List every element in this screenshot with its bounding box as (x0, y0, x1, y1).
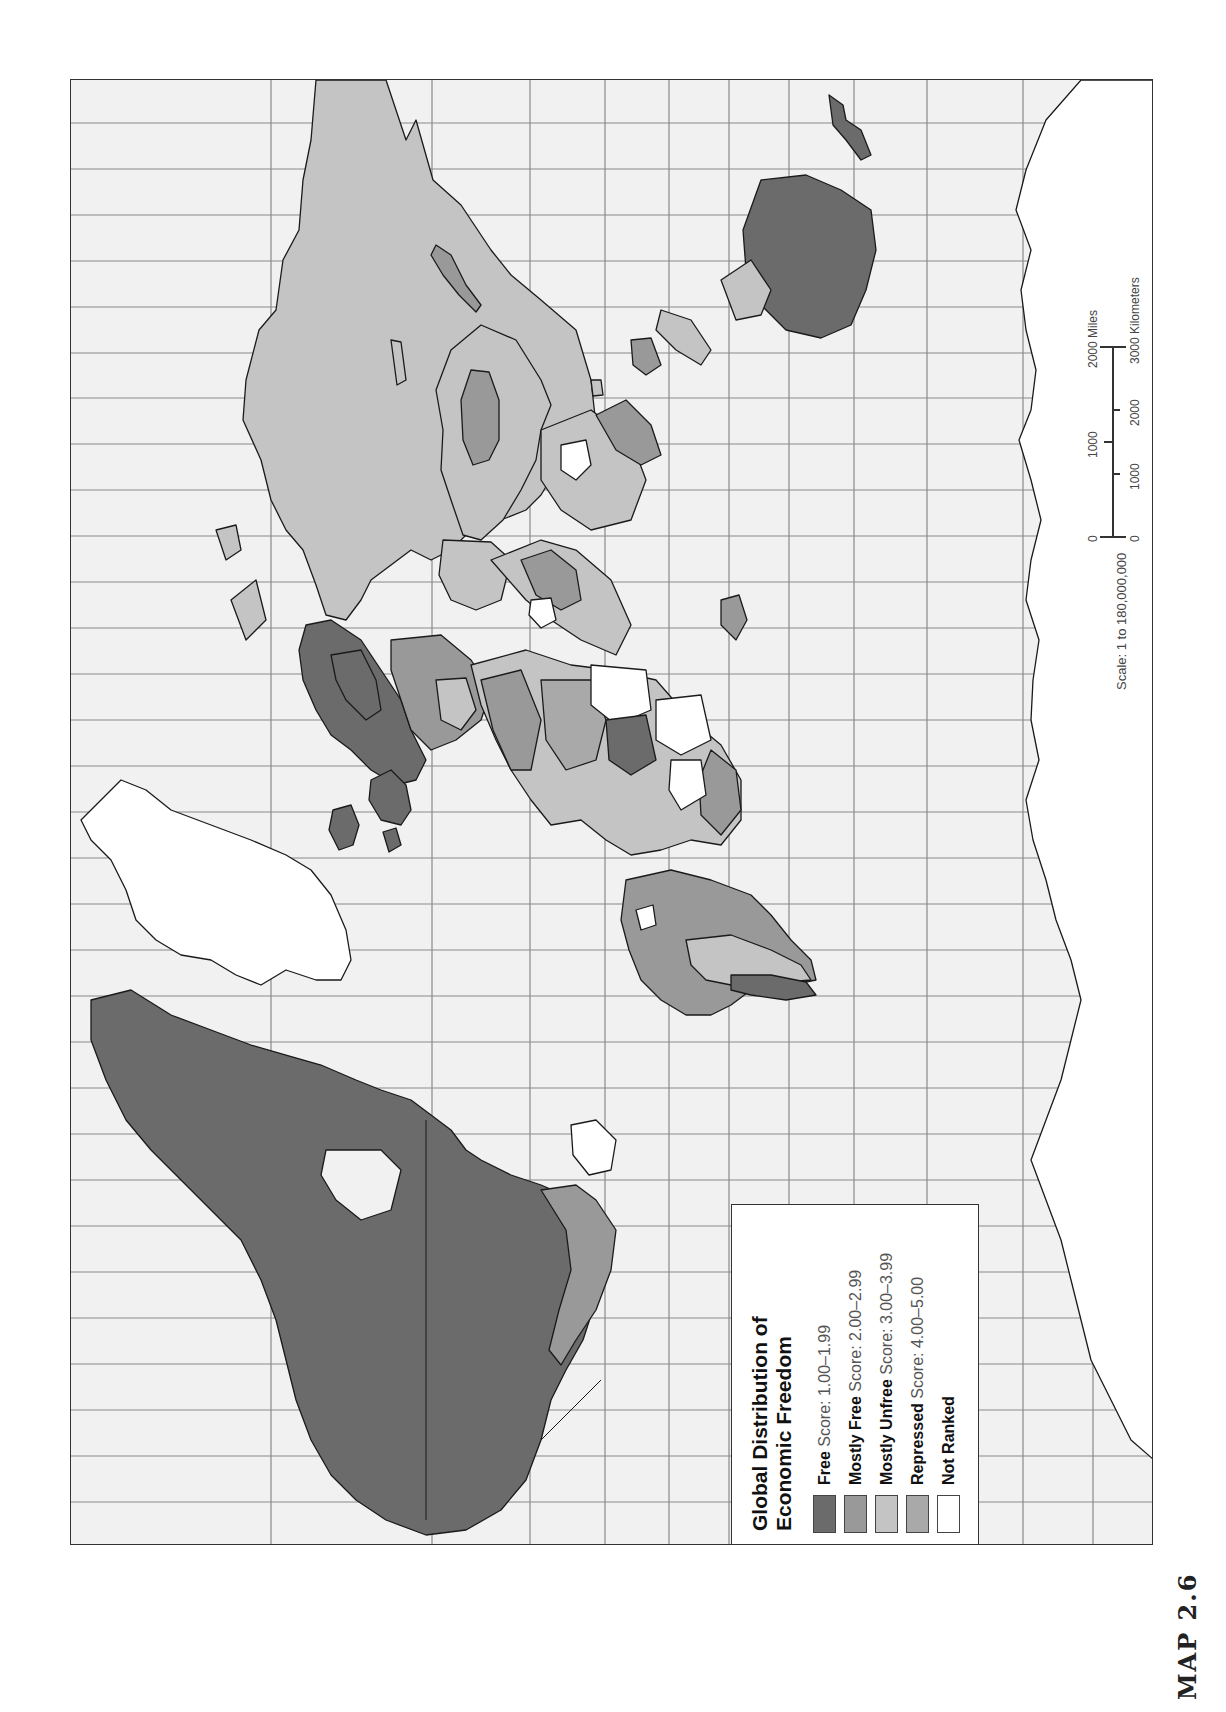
legend-title-line2: Economic Freedom (772, 1219, 796, 1531)
region-new-zealand (829, 95, 871, 160)
map-frame: Global Distribution of Economic Freedom … (70, 79, 1153, 1545)
region-russia (243, 80, 596, 620)
km-label-2000: 2000 (1128, 399, 1142, 426)
region-taiwan (591, 380, 603, 396)
miles-label-0: 0 (1086, 535, 1100, 542)
scale-ratio: Scale: 1 to 180,000,000 (1114, 553, 1129, 690)
legend-item-free: Free Score: 1.00–1.99 (810, 1219, 839, 1533)
km-label-1000: 1000 (1128, 463, 1142, 490)
km-label-0: 0 (1128, 535, 1142, 542)
figure-label-text: MAP 2.6 (1168, 1530, 1208, 1700)
region-central-asia (439, 540, 511, 610)
repressed-swatch (906, 1495, 929, 1533)
scale-line (1112, 348, 1114, 538)
region-svalbard (216, 525, 241, 560)
legend-item-label: Mostly Unfree (878, 1379, 895, 1485)
km-label-3000: 3000 Kilometers (1128, 277, 1142, 364)
region-central-america-notranked (571, 1120, 616, 1175)
legend-item-not-ranked: Not Ranked (934, 1219, 963, 1533)
mostly-free-swatch (844, 1495, 867, 1533)
legend-item-repressed: Repressed Score: 4.00–5.00 (903, 1219, 932, 1533)
scale-bar: Scale: 1 to 180,000,000 0 1000 2000 Mile… (1090, 270, 1150, 690)
legend: Global Distribution of Economic Freedom … (731, 1204, 979, 1545)
region-australia (743, 175, 876, 338)
not-ranked-swatch (937, 1495, 960, 1533)
legend-item-label: Mostly Free (847, 1396, 864, 1485)
mostly-unfree-swatch (875, 1495, 898, 1533)
legend-item-score: Score: 1.00–1.99 (816, 1325, 833, 1447)
legend-item-label: Repressed (909, 1403, 926, 1485)
scale-tick (1104, 442, 1112, 444)
legend-item-mostly-unfree: Mostly Unfree Score: 3.00–3.99 (872, 1219, 901, 1533)
scale-tick (1100, 347, 1126, 349)
region-ireland (383, 828, 401, 852)
region-indonesia (656, 310, 711, 365)
miles-label-1000: 1000 (1086, 431, 1100, 458)
legend-item-score: Score: 3.00–3.99 (878, 1253, 895, 1375)
region-novaya-zemlya (231, 580, 266, 640)
region-iraq-notranked (529, 598, 556, 628)
region-madagascar (721, 595, 747, 640)
legend-item-score: Score: 4.00–5.00 (909, 1277, 926, 1399)
region-greenland (81, 780, 351, 985)
region-mongolia (461, 370, 499, 465)
world-map (71, 80, 1153, 1545)
free-swatch (813, 1495, 836, 1533)
scale-tick (1112, 410, 1120, 412)
legend-title: Global Distribution of Economic Freedom (748, 1219, 796, 1531)
region-north-america (91, 990, 601, 1535)
miles-label-2000: 2000 Miles (1086, 310, 1100, 368)
legend-item-score: Score: 2.00–2.99 (847, 1270, 864, 1392)
figure-label: MAP 2.6 (1168, 1530, 1208, 1700)
region-philippines (631, 338, 661, 375)
legend-item-mostly-free: Mostly Free Score: 2.00–2.99 (841, 1219, 870, 1533)
legend-item-label: Free (816, 1451, 833, 1485)
scale-tick (1112, 474, 1120, 476)
scale-tick (1100, 537, 1126, 539)
legend-title-line1: Global Distribution of (748, 1219, 772, 1531)
legend-item-label: Not Ranked (940, 1396, 957, 1485)
